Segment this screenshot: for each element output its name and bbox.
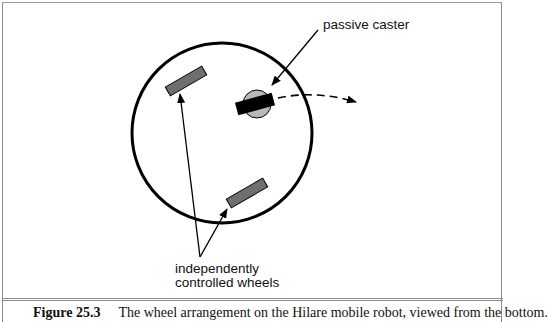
caster-motion-arrow-icon [278,95,356,102]
caster-label: passive caster [323,17,409,32]
caption-divider-top [2,298,503,299]
figure-number: Figure 25.3 [33,305,100,320]
caption-text: The wheel arrangement on the Hilare mobi… [118,305,548,320]
caster-pointer-arrow-icon [272,30,318,85]
wheel-right-pointer-arrow-icon [200,209,227,257]
wheel-left-pointer-arrow-icon [180,94,200,257]
wheels-label-line1: independently [175,261,259,276]
wheel-right-icon [226,178,267,208]
wheels-label-line2: controlled wheels [175,275,279,290]
caption-divider-bottom [2,300,503,301]
passive-caster-icon [235,90,275,118]
wheel-left-icon [165,66,206,96]
figure-caption: Figure 25.3The wheel arrangement on the … [33,305,548,321]
